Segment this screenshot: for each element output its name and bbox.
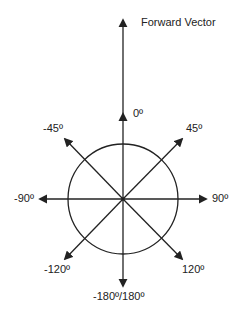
zero-degree-arrowhead	[119, 112, 128, 121]
minus90-label: -90º	[14, 193, 34, 204]
minus120-arrow	[65, 199, 123, 259]
back-label: -180º/180º	[93, 291, 144, 302]
angle-diagram	[0, 0, 241, 313]
plus120-label: 120º	[182, 264, 204, 275]
plus120-arrow	[123, 199, 182, 259]
plus45-arrow	[123, 139, 182, 199]
minus45-label: -45º	[43, 123, 63, 134]
center-dot	[121, 197, 125, 201]
forward-vector-label: Forward Vector	[141, 17, 216, 28]
minus45-arrow	[65, 139, 123, 199]
plus45-label: 45º	[186, 123, 202, 134]
plus90-label: 90º	[212, 193, 228, 204]
minus120-label: -120º	[44, 264, 70, 275]
zero-degree-label: 0º	[133, 108, 143, 119]
